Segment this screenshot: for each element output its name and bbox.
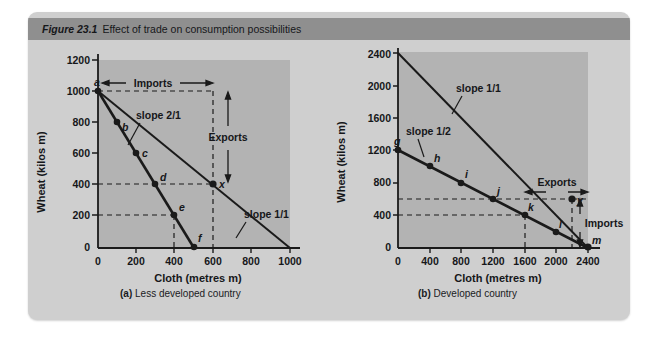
caption-text-a: Less developed country <box>135 288 241 299</box>
point-label-m: m <box>592 234 601 246</box>
chart-panel-a: Wheat (kilos m) 1200 1000 800 600 400 20… <box>28 42 328 288</box>
x-tick-label-a-200: 200 <box>127 255 145 267</box>
y-tick-label-a-1000: 1000 <box>67 85 91 97</box>
caption-panel-a: (a) Less developed country <box>120 288 241 299</box>
figure-captions: (a) Less developed country (b) Developed… <box>28 288 630 310</box>
point-label-d: d <box>160 171 167 183</box>
data-point-h <box>427 163 434 170</box>
y-tick-label-b-1600: 1600 <box>368 112 392 124</box>
figure-title: Effect of trade on consumption possibili… <box>102 23 301 35</box>
y-tick-label-a-600: 600 <box>72 147 90 159</box>
point-label-g: g <box>393 135 401 147</box>
data-point-y <box>568 195 575 202</box>
x-tick-label-a-600: 600 <box>204 255 222 267</box>
x-tick-label-a-1000: 1000 <box>278 255 302 267</box>
y-tick-label-b-800: 800 <box>373 176 391 188</box>
imports-label-a: Imports <box>134 77 173 89</box>
exports-label-a: Exports <box>208 131 247 143</box>
point-label-b: b <box>122 121 129 133</box>
point-label-x: x <box>218 178 226 190</box>
x-tick-label-b-1200: 1200 <box>481 255 505 267</box>
point-label-h: h <box>434 152 440 164</box>
y-tick-label-a-0: 0 <box>84 241 90 253</box>
y-axis-label-b: Wheat (kilos m) <box>335 121 347 203</box>
figure-header: Figure 23.1 Effect of trade on consumpti… <box>28 18 630 40</box>
data-point-e <box>171 212 178 219</box>
x-tick-label-a-800: 800 <box>242 255 260 267</box>
slope-label-a-ppf: slope 2/1 <box>136 109 181 121</box>
x-axis-label-a: Cloth (metres m) <box>154 272 242 284</box>
y-axis-label-a: Wheat (kilos m) <box>35 131 47 213</box>
data-point-f <box>191 244 198 251</box>
data-point-j <box>490 196 497 203</box>
y-tick-label-a-1200: 1200 <box>67 54 91 66</box>
figure-number: Figure 23.1 <box>42 23 97 35</box>
chart-a-svg: Wheat (kilos m) 1200 1000 800 600 400 20… <box>28 42 328 288</box>
x-tick-label-b-2400: 2400 <box>576 255 600 267</box>
point-label-e: e <box>179 201 185 213</box>
chart-panel-b: Wheat (kilos m) 2400 2000 1600 1200 800 … <box>328 42 630 288</box>
slope-label-b-trade: slope 1/1 <box>456 82 501 94</box>
data-point-b <box>114 119 121 126</box>
caption-text-b: Developed country <box>434 288 517 299</box>
x-tick-label-b-400: 400 <box>421 255 439 267</box>
y-tick-label-b-0: 0 <box>385 241 391 253</box>
y-tick-label-b-1200: 1200 <box>368 144 392 156</box>
x-tick-label-b-800: 800 <box>452 255 470 267</box>
y-tick-label-a-200: 200 <box>72 209 90 221</box>
x-tick-label-a-0: 0 <box>95 255 101 267</box>
figure-card: Figure 23.1 Effect of trade on consumpti… <box>28 12 630 320</box>
caption-panel-b: (b) Developed country <box>418 288 517 299</box>
point-label-a: a <box>94 76 100 88</box>
y-tick-label-b-2400: 2400 <box>368 48 392 60</box>
data-point-x <box>209 180 216 187</box>
imports-label-b: Imports <box>585 217 624 229</box>
y-tick-label-b-400: 400 <box>373 209 391 221</box>
slope-label-a-trade: slope 1/1 <box>244 208 289 220</box>
exports-label-b: Exports <box>537 176 576 188</box>
x-axis-label-b: Cloth (metres m) <box>454 272 542 284</box>
caption-marker-a: (a) <box>120 288 132 299</box>
charts-row: Wheat (kilos m) 1200 1000 800 600 400 20… <box>28 42 630 288</box>
chart-b-svg: Wheat (kilos m) 2400 2000 1600 1200 800 … <box>328 42 630 288</box>
data-point-d <box>152 181 159 188</box>
data-point-a <box>95 88 102 95</box>
point-label-c: c <box>142 147 148 159</box>
data-point-m <box>584 243 591 250</box>
data-point-i <box>458 180 465 187</box>
x-tick-label-a-400: 400 <box>165 255 183 267</box>
caption-marker-b: (b) <box>418 288 431 299</box>
slope-label-b-ppf: slope 1/2 <box>406 125 451 137</box>
x-tick-label-b-0: 0 <box>395 255 401 267</box>
data-point-c <box>133 150 140 157</box>
x-tick-label-b-2000: 2000 <box>544 255 568 267</box>
data-point-g <box>395 147 402 154</box>
x-tick-label-b-1600: 1600 <box>513 255 537 267</box>
y-tick-label-a-800: 800 <box>72 116 90 128</box>
y-tick-label-a-400: 400 <box>72 178 90 190</box>
y-tick-label-b-2000: 2000 <box>368 80 392 92</box>
